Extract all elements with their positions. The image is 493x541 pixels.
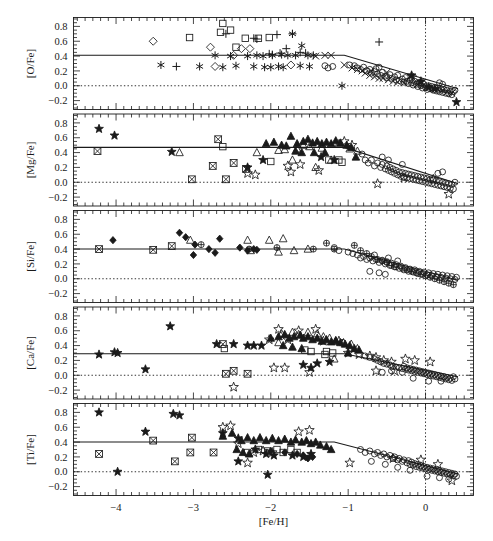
marker-diamond-filled	[190, 251, 196, 258]
marker-triangle-filled	[287, 132, 295, 139]
marker-star-filled	[452, 97, 461, 105]
marker-star-filled	[234, 457, 243, 465]
marker-circle-open	[376, 270, 382, 276]
marker-triangle-open	[265, 236, 273, 243]
marker-star-open	[251, 170, 261, 179]
series-asterisk	[157, 30, 345, 90]
y-tick-label: −0.2	[48, 288, 67, 299]
marker-square-crossed	[210, 449, 217, 456]
marker-square-crossed	[171, 458, 178, 465]
marker-asterisk	[250, 62, 257, 70]
y-axis-label: [Ti/Fe]	[24, 434, 36, 465]
y-tick-label: 0.0	[54, 177, 67, 188]
marker-star-filled	[95, 408, 104, 416]
marker-square-crossed	[230, 160, 237, 167]
marker-square-crossed	[244, 370, 251, 377]
marker-square-crossed	[219, 341, 226, 348]
marker-square-crossed	[223, 370, 230, 377]
marker-triangle-filled	[289, 343, 297, 350]
series-open-square	[186, 20, 272, 50]
panel-frame	[74, 114, 474, 206]
marker-star-open	[373, 179, 383, 188]
marker-asterisk	[298, 42, 305, 50]
marker-asterisk	[157, 61, 164, 69]
y-tick-label: 0.2	[54, 162, 67, 173]
y-tick-label: 0.4	[54, 340, 68, 351]
panel-frame	[74, 211, 474, 303]
model-trend-line	[74, 249, 459, 280]
marker-star-filled	[141, 427, 150, 435]
y-tick-label: 0.4	[54, 51, 68, 62]
y-tick-label: 0.2	[54, 452, 67, 463]
marker-plus	[172, 62, 180, 70]
marker-circle-plus	[274, 245, 280, 251]
marker-square-crossed	[168, 243, 175, 250]
y-axis-label: [Si/Fe]	[24, 241, 36, 272]
marker-diamond-filled	[217, 235, 223, 242]
marker-circle-open	[407, 467, 413, 473]
marker-triangle-filled	[292, 147, 300, 154]
x-tick-label: 0	[423, 502, 428, 513]
marker-star-filled	[166, 322, 175, 330]
series-open-square	[221, 345, 336, 357]
marker-asterisk	[297, 62, 304, 70]
y-axis-label: [O/Fe]	[24, 49, 36, 78]
y-tick-label: 0.0	[54, 466, 67, 477]
panel-4: 0.80.60.40.20.0−0.2[Ca/Fe]	[24, 307, 474, 399]
marker-square-crossed	[188, 176, 195, 183]
marker-circle-open	[382, 271, 388, 277]
marker-square-crossed	[94, 148, 101, 155]
marker-triangle-open	[244, 236, 252, 243]
model-trend-line	[74, 147, 459, 183]
series-open-star	[229, 324, 435, 391]
marker-square-open	[242, 35, 248, 41]
series-filled-star	[95, 322, 334, 373]
marker-circle-open	[410, 375, 416, 381]
series-open-circle	[358, 447, 460, 483]
y-tick-label: −0.2	[48, 481, 67, 492]
marker-diamond-filled	[110, 237, 116, 244]
marker-star-filled	[95, 350, 104, 358]
marker-square-open	[266, 34, 272, 40]
y-tick-label: 0.0	[54, 80, 67, 91]
marker-circle-plus	[323, 240, 329, 246]
y-tick-label: 0.0	[54, 370, 67, 381]
figure-abundance-ratios-vs-metallicity: 0.80.60.40.20.0−0.2[O/Fe]0.80.60.40.20.0…	[0, 0, 493, 541]
marker-triangle-filled	[292, 436, 300, 443]
marker-square-open	[217, 29, 223, 35]
marker-star-open	[425, 357, 435, 366]
marker-circle-open	[385, 157, 391, 163]
chart-svg: 0.80.60.40.20.0−0.2[O/Fe]0.80.60.40.20.0…	[0, 0, 493, 541]
marker-star-filled	[167, 147, 176, 155]
marker-diamond-open	[287, 61, 295, 69]
marker-star-open	[295, 159, 305, 168]
panel-5: 0.80.60.40.20.0−0.2[Ti/Fe]−4−3−2−10[Fe/H…	[24, 404, 474, 527]
marker-star-open	[410, 355, 420, 364]
y-tick-label: 0.4	[54, 437, 68, 448]
marker-diamond-filled	[212, 249, 218, 256]
marker-asterisk	[219, 63, 226, 71]
series-filled-diamond	[110, 229, 260, 258]
marker-star-open	[294, 427, 304, 436]
y-tick-label: 0.8	[54, 311, 67, 322]
marker-circle-open	[379, 369, 385, 375]
y-tick-label: 0.2	[54, 355, 67, 366]
marker-star-open	[229, 382, 239, 391]
marker-square-open	[227, 27, 233, 33]
marker-star-filled	[257, 341, 266, 349]
marker-circle-open	[436, 475, 442, 481]
marker-star-filled	[141, 365, 150, 373]
marker-plus	[375, 38, 383, 46]
y-tick-label: 0.2	[54, 259, 67, 270]
x-tick-label: −1	[343, 502, 354, 513]
marker-circle-open	[399, 161, 405, 167]
marker-circle-plus	[246, 246, 252, 252]
x-tick-label: −3	[188, 502, 199, 513]
marker-star-open	[269, 363, 279, 372]
marker-circle-open	[395, 258, 401, 264]
marker-circle-open	[367, 268, 373, 274]
marker-triangle-open	[176, 148, 184, 155]
marker-square-crossed	[187, 449, 194, 456]
marker-triangle-filled	[262, 140, 270, 147]
marker-star-filled	[110, 131, 119, 139]
